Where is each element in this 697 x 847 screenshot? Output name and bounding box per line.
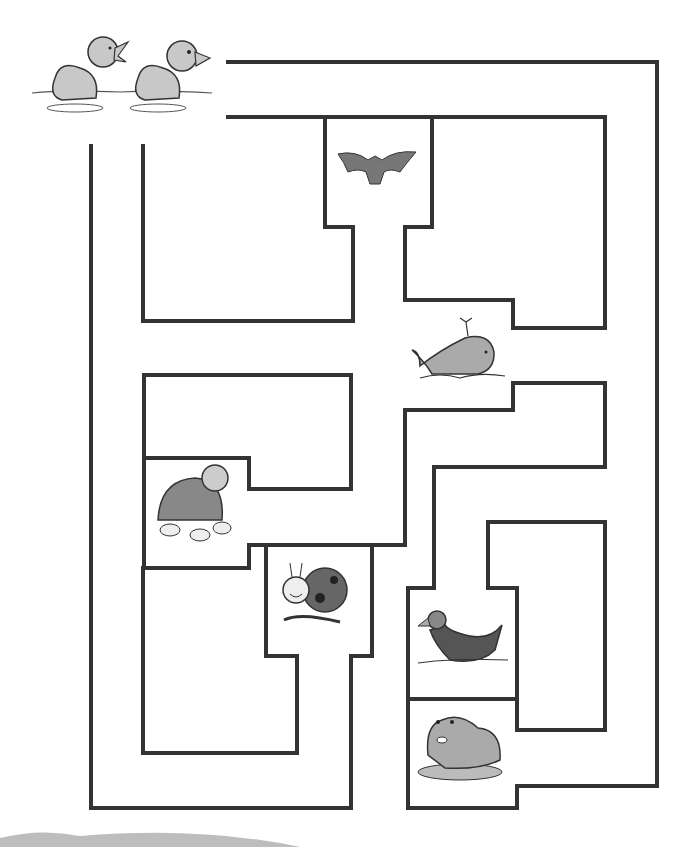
frog-icon[interactable] <box>418 717 502 780</box>
whale-icon[interactable] <box>412 318 505 378</box>
duck-icon[interactable] <box>418 611 508 663</box>
maze-board[interactable] <box>0 0 697 847</box>
ladybug-icon[interactable] <box>283 563 347 622</box>
turtle-icon[interactable] <box>158 465 231 541</box>
duckling-icon <box>53 37 128 100</box>
ducklings-start[interactable] <box>32 37 212 112</box>
decorative-swoosh <box>0 832 300 847</box>
duckling-icon <box>136 41 210 100</box>
bat-icon[interactable] <box>338 152 416 184</box>
